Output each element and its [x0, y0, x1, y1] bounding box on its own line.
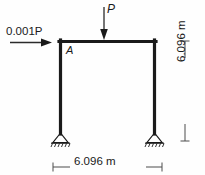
frame-members: [59, 40, 156, 134]
joint-a-label: A: [66, 45, 73, 56]
lateral-load-label: 0.001P: [6, 26, 42, 38]
vertical-load-label: P: [107, 3, 115, 15]
lateral-load-arrow-icon: [10, 39, 52, 47]
height-dimension-label: 6.096 m: [176, 10, 188, 62]
structural-frame-diagram: 0.001P P A 6.096 m 6.096 m: [0, 0, 205, 175]
span-dimension-label: 6.096 m: [74, 156, 116, 168]
